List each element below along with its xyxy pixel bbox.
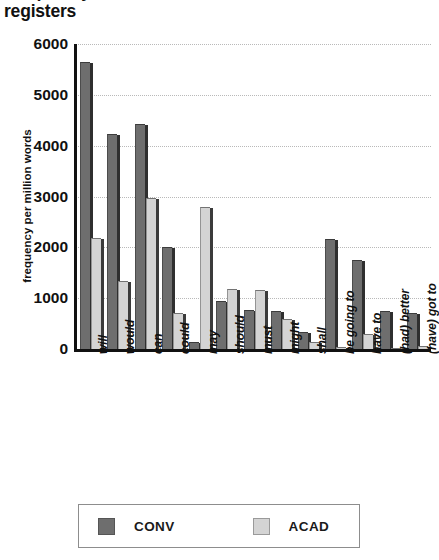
legend-swatch-conv bbox=[98, 518, 115, 535]
x-tick-label-text: can bbox=[151, 334, 165, 354]
y-tick-1000: 1000 bbox=[34, 290, 68, 306]
y-tick-0: 0 bbox=[59, 341, 68, 357]
legend-item-conv: CONV bbox=[98, 518, 175, 535]
x-tick-label: may bbox=[187, 352, 214, 502]
x-tick-label-text: could bbox=[178, 323, 192, 355]
x-tick-label-text: might bbox=[288, 322, 302, 354]
bar-group bbox=[131, 44, 158, 349]
x-tick-label: be going to bbox=[324, 352, 351, 502]
y-tick-3000: 3000 bbox=[34, 189, 68, 205]
chart-title: Frequency of modal and semi-modal verbs … bbox=[4, 0, 434, 21]
chart-legend: CONV ACAD bbox=[78, 504, 360, 548]
x-tick-label: should bbox=[214, 352, 241, 502]
bar-group bbox=[213, 44, 240, 349]
x-tick-label: could bbox=[159, 352, 186, 502]
x-axis-labels: willwouldcancouldmayshouldmustmightshall… bbox=[77, 352, 434, 502]
bar-group bbox=[104, 44, 131, 349]
y-tick-4000: 4000 bbox=[34, 138, 68, 154]
bar-group bbox=[186, 44, 213, 349]
bar-group bbox=[268, 44, 295, 349]
x-tick-label: must bbox=[242, 352, 269, 502]
bar-group bbox=[159, 44, 186, 349]
y-tick-6000: 6000 bbox=[34, 36, 68, 52]
x-tick-label-text: shall bbox=[315, 327, 329, 354]
bar-conv bbox=[107, 134, 117, 349]
x-tick-label: (had) better bbox=[379, 352, 406, 502]
x-tick-label-text: (had) better bbox=[398, 289, 412, 354]
x-tick-label-text: should bbox=[233, 315, 247, 354]
bar-acad bbox=[200, 207, 210, 349]
x-tick-label: (have) got to bbox=[407, 352, 434, 502]
bar-group bbox=[77, 44, 104, 349]
bar-groups bbox=[77, 44, 431, 349]
bar-acad bbox=[91, 238, 101, 349]
y-tick-2000: 2000 bbox=[34, 240, 68, 256]
y-axis-ticks: 0100020003000400050006000 bbox=[0, 44, 72, 369]
x-tick-label-text: be going to bbox=[343, 290, 357, 354]
bar-group bbox=[295, 44, 322, 349]
legend-label-acad: ACAD bbox=[289, 519, 330, 534]
x-tick-label: can bbox=[132, 352, 159, 502]
legend-item-acad: ACAD bbox=[253, 518, 330, 535]
bar-acad bbox=[146, 198, 156, 349]
bar-conv bbox=[135, 124, 145, 349]
x-tick-label-text: (have) got to bbox=[425, 283, 439, 354]
x-tick-label: would bbox=[104, 352, 131, 502]
plot-panel bbox=[74, 44, 431, 349]
x-tick-label: will bbox=[77, 352, 104, 502]
x-tick-label: have to bbox=[352, 352, 379, 502]
bar-group bbox=[240, 44, 267, 349]
chart-title-line-2: registers bbox=[4, 1, 434, 21]
x-tick-label-text: must bbox=[261, 326, 275, 354]
x-tick-label-text: may bbox=[206, 330, 220, 354]
y-tick-5000: 5000 bbox=[34, 87, 68, 103]
bar-conv bbox=[80, 62, 90, 349]
x-tick-label-text: would bbox=[123, 320, 137, 354]
x-tick-label: might bbox=[269, 352, 296, 502]
x-tick-label: shall bbox=[297, 352, 324, 502]
legend-swatch-acad bbox=[253, 518, 270, 535]
legend-label-conv: CONV bbox=[134, 519, 175, 534]
x-tick-label-text: have to bbox=[370, 313, 384, 354]
